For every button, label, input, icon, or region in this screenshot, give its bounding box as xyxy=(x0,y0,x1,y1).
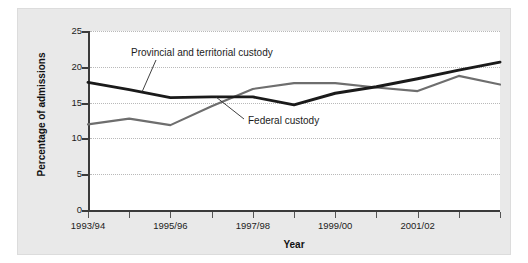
leader-line-federal xyxy=(216,97,244,119)
series-annotation-federal: Federal custody xyxy=(248,115,319,126)
chart-panel: 25 20 15 10 5 0 1993/94 1995/96 1997/98 … xyxy=(17,8,511,255)
chart-figure: 25 20 15 10 5 0 1993/94 1995/96 1997/98 … xyxy=(0,0,528,263)
series-annotation-provincial: Provincial and territorial custody xyxy=(131,47,273,58)
leader-line-provincial xyxy=(142,60,156,92)
